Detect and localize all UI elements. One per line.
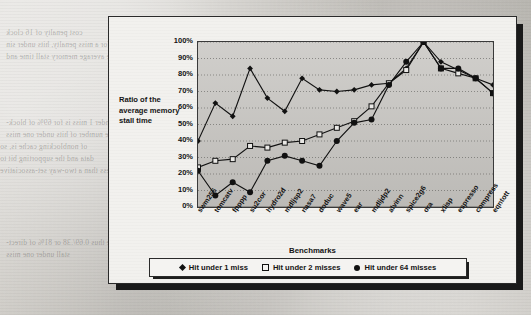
data-point-marker (351, 87, 357, 93)
y-axis-tick-label: 40% (159, 136, 193, 144)
data-point-marker (213, 158, 218, 163)
y-axis-tick-labels: 0%10%20%30%40%50%60%70%80%90%100% (153, 41, 193, 206)
y-axis-tick-label: 30% (159, 153, 193, 161)
bleed-through-line: hit under 1 miss is for 69% of block- (6, 118, 124, 127)
legend-item[interactable]: Hit under 2 misses (262, 263, 341, 272)
data-point-marker (404, 68, 409, 73)
data-point-marker (351, 120, 357, 126)
data-point-marker (369, 104, 374, 109)
data-point-marker (334, 138, 340, 144)
data-point-marker (473, 75, 479, 81)
plot-area (197, 41, 494, 208)
data-point-marker (334, 89, 340, 95)
y-axis-tick-label: 70% (159, 87, 193, 95)
data-point-marker (334, 125, 339, 130)
data-point-marker (403, 59, 409, 65)
legend-label: Hit under 64 misses (364, 263, 436, 272)
data-point-marker (299, 158, 305, 164)
bleed-through-line: for a miss penalty, hits under sin (6, 40, 110, 49)
legend-item[interactable]: Hit under 1 miss (180, 263, 248, 272)
data-point-marker (264, 158, 270, 164)
y-axis-tick-label: 0% (159, 202, 193, 210)
y-axis-tick-label: 90% (159, 54, 193, 62)
data-point-marker (369, 82, 375, 88)
legend-label: Hit under 1 miss (189, 263, 248, 272)
chart-card: Ratio of the average memory stall time 0… (108, 16, 517, 284)
y-axis-tick-label: 100% (159, 37, 193, 45)
legend-label: Hit under 2 misses (273, 263, 341, 272)
bleed-through-line: less than a two-way set-associative (0, 166, 112, 175)
data-point-marker (265, 145, 270, 150)
data-point-marker (247, 189, 253, 195)
data-point-marker (282, 153, 288, 159)
legend-marker-diamond-icon (179, 264, 186, 271)
series-line (198, 42, 493, 167)
bleed-through-line: cost penalty of 16 clock (6, 28, 82, 37)
data-point-marker (369, 117, 375, 123)
data-point-marker (230, 179, 236, 185)
series-canvas (198, 42, 493, 207)
data-point-marker (282, 140, 287, 145)
data-point-marker (299, 75, 305, 81)
x-axis-title: Benchmarks (109, 246, 516, 255)
data-point-marker (300, 139, 305, 144)
y-axis-tick-label: 50% (159, 120, 193, 128)
bleed-through-line: of nonblocking cache is, so (0, 142, 87, 151)
legend-marker-filled-circle-icon (354, 265, 360, 271)
series-diamond (198, 42, 493, 144)
data-point-marker (438, 65, 444, 71)
y-axis-tick-label: 10% (159, 186, 193, 194)
legend-item[interactable]: Hit under 64 misses (354, 263, 436, 272)
data-point-marker (456, 71, 461, 76)
data-point-marker (317, 87, 323, 93)
data-point-marker (455, 65, 461, 71)
y-axis-tick-label: 60% (159, 103, 193, 111)
data-point-marker (316, 163, 322, 169)
data-point-marker (386, 82, 392, 88)
bleed-through-line: the number of hits under one miss (6, 130, 115, 139)
y-axis-tick-label: 80% (159, 70, 193, 78)
chart-legend: Hit under 1 missHit under 2 missesHit un… (149, 258, 467, 277)
y-axis-tick-label: 20% (159, 169, 193, 177)
data-point-marker (248, 143, 253, 148)
data-point-marker (490, 82, 493, 88)
data-point-marker (230, 157, 235, 162)
chart-svg (198, 42, 493, 207)
bleed-through-line: data and the supporting bit to (0, 154, 94, 163)
bleed-through-line: stall under one miss (6, 250, 70, 259)
series-open-square (198, 42, 493, 170)
data-point-marker (317, 132, 322, 137)
legend-marker-open-square-icon (262, 264, 269, 271)
data-point-marker (247, 66, 253, 72)
bleed-through-line: are thus 0.69/.38 or 81% of direct- (6, 238, 116, 247)
